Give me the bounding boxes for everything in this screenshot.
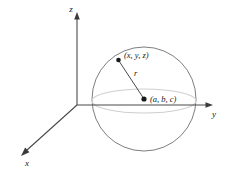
center-point-label: (a, b, c): [150, 94, 177, 104]
sphere-diagram: z y x (x, y, z) (a, b, c) r: [0, 0, 231, 173]
figure-background: [0, 0, 231, 173]
surface-point-label: (x, y, z): [124, 50, 149, 60]
center-point-dot: [141, 96, 146, 101]
surface-point-dot: [116, 58, 121, 63]
z-axis-label: z: [68, 4, 73, 14]
x-axis-label: x: [24, 158, 29, 168]
y-axis-label: y: [211, 109, 216, 119]
